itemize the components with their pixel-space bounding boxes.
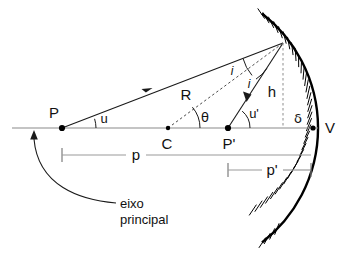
label-angle-u: u xyxy=(100,111,107,126)
angle-arc-theta xyxy=(192,107,200,128)
angle-arc-i-incident xyxy=(243,58,252,75)
label-angle-i-reflected: i xyxy=(248,77,251,91)
diagram-canvas: P C P' V u u' θ δ i i R h p p' eixo prin… xyxy=(0,0,352,255)
label-distance-p: p xyxy=(132,146,140,163)
label-radius-r: R xyxy=(181,86,192,103)
axis-callout-curve xyxy=(34,139,116,203)
axis-note-line-1: eixo xyxy=(120,196,144,211)
axis-callout-group xyxy=(30,130,116,203)
label-point-v: V xyxy=(325,119,335,136)
label-point-c: C xyxy=(162,135,173,152)
point-c-dot xyxy=(166,126,170,130)
label-angle-i-incident: i xyxy=(231,64,234,78)
label-point-p: P xyxy=(49,104,59,121)
angle-arc-i-reflected xyxy=(256,69,267,80)
optics-diagram-figure: P C P' V u u' θ δ i i R h p p' eixo prin… xyxy=(0,0,352,255)
axis-note-line-2: principal xyxy=(120,212,169,227)
incident-ray-arrow xyxy=(142,88,153,93)
label-point-p-prime: P' xyxy=(223,135,236,152)
point-v-dot xyxy=(310,125,315,130)
angle-arc-u xyxy=(95,119,96,128)
label-angle-theta: θ xyxy=(201,110,209,125)
point-p-prime-dot xyxy=(225,125,231,131)
label-angle-delta: δ xyxy=(294,111,302,126)
label-angle-u-prime: u' xyxy=(249,106,259,121)
label-height-h: h xyxy=(268,83,276,100)
axis-callout-arrowhead xyxy=(30,130,38,140)
label-distance-p-prime: p' xyxy=(266,161,277,178)
point-p-dot xyxy=(59,125,65,131)
